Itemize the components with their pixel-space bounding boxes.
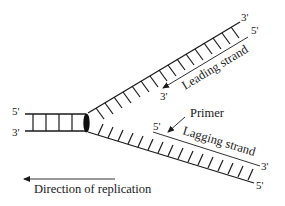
- lagging-new-strand: 5' 3' Lagging strand: [153, 120, 269, 172]
- direction-of-replication: Direction of replication: [24, 179, 152, 196]
- leading-new-3prime-label: 3': [160, 90, 168, 102]
- lagging-strand-label: Lagging strand: [181, 123, 258, 159]
- lagging-template-5prime-label: 5': [256, 179, 264, 191]
- lagging-new-3prime-label: 3': [261, 160, 269, 172]
- leading-new-strand: 5' 3' Leading strand: [160, 24, 259, 102]
- parent-duplex: 5' 3': [12, 105, 86, 138]
- lagging-rungs: [98, 124, 253, 180]
- leading-strand-label: Leading strand: [179, 42, 251, 93]
- parent-rungs: [33, 114, 72, 131]
- leading-new-5prime-label: 5': [251, 24, 259, 36]
- lagging-template: 5': [88, 124, 264, 191]
- replication-fork-diagram: 5' 3' 3' 5' 3' Leadin: [0, 0, 285, 206]
- parent-bottom-3prime-label: 3': [12, 126, 20, 138]
- leading-template-3prime-label: 3': [241, 11, 249, 23]
- helicase-fork-point: [83, 114, 89, 133]
- lagging-new-5prime-label: 5': [153, 120, 161, 132]
- direction-label: Direction of replication: [34, 182, 152, 196]
- parent-top-5prime-label: 5': [12, 105, 20, 117]
- primer-label: Primer: [190, 106, 225, 120]
